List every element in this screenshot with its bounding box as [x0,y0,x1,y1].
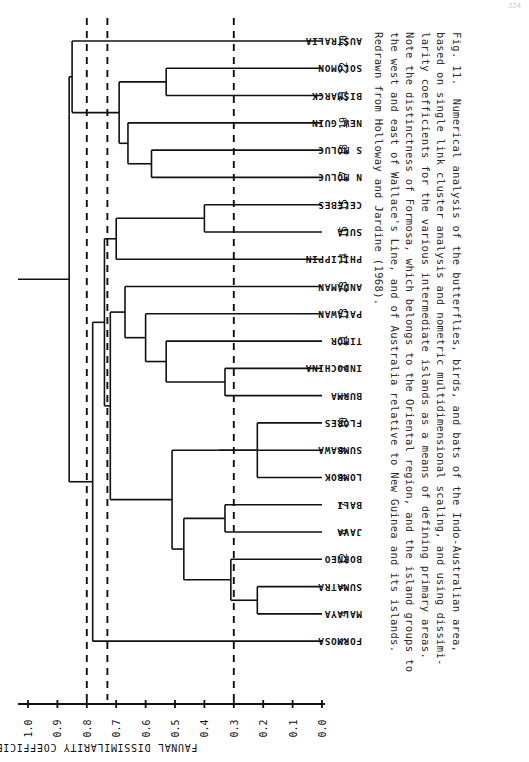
leaf-label-palawan: PALAWAN [232,308,362,321]
leaf-label-sumatra: SUMATRA [232,581,362,594]
leaf-label-indochina: INDOCHINA [232,362,362,375]
caption-line-5: the west and east of Wallace's Line, and… [386,32,402,732]
page-number: 224 [508,2,521,10]
axis-title: FAUNAL DISSIMILARITY COEFFICIENT [0,740,240,754]
caption-line-1: Fig. 11. Numerical analysis of the butte… [448,32,464,732]
leaf-label-n-moluc: N MOLUC [232,171,362,184]
leaf-label-new-guin: NEW GUIN [232,117,362,130]
leaf-label-philippin: PHILIPPIN [232,253,362,266]
caption-line-3: larity coefficients for the various inte… [417,32,433,732]
leaf-label-formosa: FORMOSA [232,635,362,648]
leaf-label-s-moluc: S MOLUC [232,144,362,157]
axis-tick-0-0: 0.0 [316,712,329,746]
leaf-label-sula: SULA [232,226,362,239]
leaf-label-australia: AUSTRALIA [232,35,362,48]
axis-tick-0-2: 0.2 [257,712,270,746]
leaf-label-burma: BURMA [232,390,362,403]
leaf-label-malaya: MALAYA [232,608,362,621]
leaf-label-bali: BALI [232,499,362,512]
leaf-label-java: JAVA [232,526,362,539]
leaf-label-lombok: LOMBOK [232,471,362,484]
caption-line-2: based on single link cluster analysis an… [433,32,449,732]
leaf-label-sumbawa: SUMBAWA [232,444,362,457]
caption-line-4: Note the distinctness of Formosa, which … [402,32,418,732]
leaf-label-timor: TIMOR [232,335,362,348]
leaf-label-flores: FLORES [232,417,362,430]
figure-caption: Fig. 11. Numerical analysis of the butte… [370,32,464,732]
leaf-label-andaman: ANDAMAN [232,281,362,294]
leaf-label-celebes: CELEBES [232,199,362,212]
leaf-label-bismarck: BISMARCK [232,90,362,103]
figure-container: 224 202221191817151614231311211098761254… [0,0,529,762]
dendrogram-plot: 2022211918171516142313112110987612543 AU… [0,0,340,762]
leaf-label-solomon: SOLOMON [232,62,362,75]
axis-tick-0-1: 0.1 [286,712,299,746]
caption-line-6: Redrawn from Holloway and Jardine (1968)… [370,32,386,732]
leaf-label-borneo: BORNEO [232,553,362,566]
